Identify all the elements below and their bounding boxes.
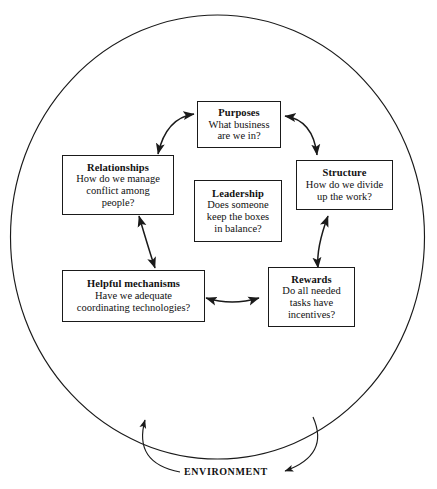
box-helpful-mechanisms[interactable]: Helpful mechanisms Have we adequate coor… bbox=[62, 270, 205, 322]
box-purposes-line-1: What business bbox=[209, 119, 270, 131]
box-purposes[interactable]: Purposes What business are we in? bbox=[197, 101, 281, 148]
box-leadership-line-2: keep the boxes bbox=[207, 211, 269, 223]
box-purposes-title: Purposes bbox=[218, 107, 260, 119]
box-structure-line-2: up the work? bbox=[317, 191, 372, 203]
connector-environment-inflow bbox=[285, 417, 318, 471]
box-rewards-line-3: incentives? bbox=[288, 309, 335, 321]
box-leadership-title: Leadership bbox=[212, 188, 264, 200]
box-rewards-line-2: tasks have bbox=[290, 297, 333, 309]
box-structure-title: Structure bbox=[323, 167, 367, 179]
box-relationships[interactable]: Relationships How do we manage conflict … bbox=[62, 155, 174, 215]
box-relationships-title: Relationships bbox=[87, 162, 149, 174]
box-structure[interactable]: Structure How do we divide up the work? bbox=[296, 160, 393, 210]
environment-label: ENVIRONMENT bbox=[184, 466, 268, 477]
box-relationships-line-1: How do we manage bbox=[76, 173, 160, 185]
box-helpful-mechanisms-line-2: coordinating technologies? bbox=[77, 302, 190, 314]
box-rewards-line-1: Do all needed bbox=[282, 285, 340, 297]
connector-structure-rewards bbox=[318, 216, 328, 268]
diagram-vector-layer bbox=[0, 0, 437, 489]
box-rewards-title: Rewards bbox=[291, 274, 331, 286]
box-leadership-line-1: Does someone bbox=[207, 199, 269, 211]
box-relationships-line-2: conflict among bbox=[86, 185, 149, 197]
connector-helpful-mechanisms-relationships bbox=[139, 216, 155, 268]
box-purposes-line-2: are we in? bbox=[217, 130, 260, 142]
box-helpful-mechanisms-title: Helpful mechanisms bbox=[87, 278, 180, 290]
connector-purposes-structure bbox=[285, 116, 317, 155]
connector-relationships-purposes bbox=[158, 114, 194, 154]
box-structure-line-1: How do we divide bbox=[306, 179, 383, 191]
diagram-canvas: Purposes What business are we in? Relati… bbox=[0, 0, 437, 489]
box-relationships-line-3: people? bbox=[102, 197, 135, 209]
box-rewards[interactable]: Rewards Do all needed tasks have incenti… bbox=[268, 267, 355, 327]
box-leadership-line-3: in balance? bbox=[214, 223, 262, 235]
connector-rewards-helpful-mechanisms bbox=[206, 298, 259, 302]
box-leadership[interactable]: Leadership Does someone keep the boxes i… bbox=[194, 180, 282, 242]
box-helpful-mechanisms-line-1: Have we adequate bbox=[95, 290, 172, 302]
